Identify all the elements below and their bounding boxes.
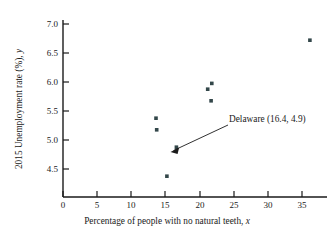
x-axis-title-text: Percentage of people with no natural tee… xyxy=(84,216,246,226)
x-tick-label: 20 xyxy=(196,201,205,210)
y-tick-label: 7.0 xyxy=(32,20,58,29)
annotation-label-delaware: Delaware (16.4, 4.9) xyxy=(229,114,306,124)
x-axis-title: Percentage of people with no natural tee… xyxy=(0,216,334,226)
y-tick-label: 5.5 xyxy=(32,107,58,116)
x-tick-label: 25 xyxy=(230,201,239,210)
y-tick-label: 6.5 xyxy=(32,49,58,58)
y-tick-label: 5.0 xyxy=(32,136,58,145)
y-tick-marks xyxy=(63,24,69,169)
x-tick-label: 35 xyxy=(298,201,307,210)
y-tick-label: 6.0 xyxy=(32,78,58,87)
y-tick-label: 4.5 xyxy=(32,165,58,174)
scatter-plot-figure: 7.0 6.5 6.0 5.5 5.0 4.5 0 5 10 15 20 25 … xyxy=(0,0,334,237)
x-tick-label: 10 xyxy=(127,201,136,210)
x-tick-label: 0 xyxy=(61,201,66,210)
data-point xyxy=(210,82,214,86)
x-tick-label: 5 xyxy=(95,201,100,210)
x-axis-variable: x xyxy=(246,216,250,226)
data-point xyxy=(206,87,210,91)
data-point xyxy=(308,38,312,42)
y-axis-title: 2015 Unemployment rate (%), y xyxy=(14,14,24,204)
data-point xyxy=(155,128,159,132)
y-axis-variable: y xyxy=(14,49,24,53)
data-point xyxy=(165,174,169,178)
y-axis-title-text: 2015 Unemployment rate (%), xyxy=(14,53,24,169)
x-tick-label: 30 xyxy=(264,201,273,210)
data-point xyxy=(209,99,213,103)
data-points xyxy=(154,38,312,178)
annotation-arrow xyxy=(171,125,229,154)
x-tick-label: 15 xyxy=(161,201,170,210)
data-point xyxy=(154,116,158,120)
x-tick-marks xyxy=(63,191,302,197)
